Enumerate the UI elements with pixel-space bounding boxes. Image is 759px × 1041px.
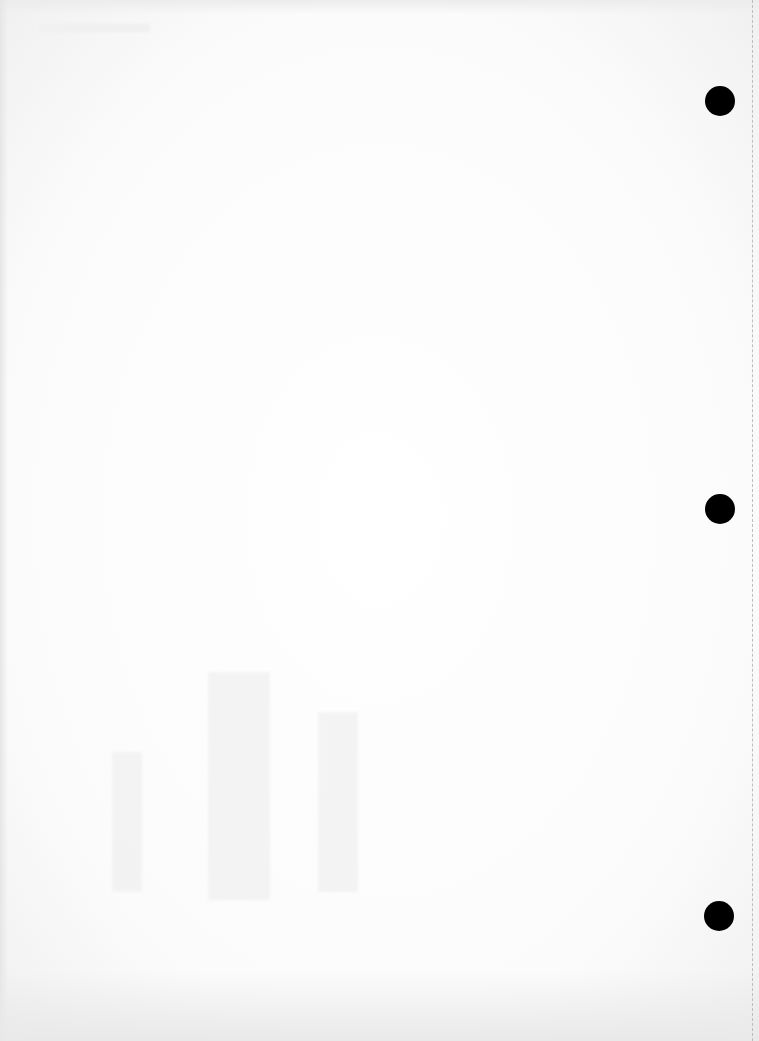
- scanned-page: [0, 0, 759, 1041]
- punch-hole-2: [705, 494, 735, 524]
- bleed-through-patch-3: [318, 712, 358, 892]
- punch-hole-3: [704, 901, 734, 931]
- perforation-line: [752, 0, 753, 1041]
- faint-header-smudge: [40, 24, 150, 32]
- scan-shadow-top: [0, 0, 759, 14]
- bleed-through-patch-1: [112, 752, 142, 892]
- scan-shadow-left: [0, 0, 8, 1041]
- scan-shadow-bottom: [0, 971, 759, 1041]
- punch-hole-1: [705, 86, 735, 116]
- bleed-through-patch-2: [208, 672, 270, 900]
